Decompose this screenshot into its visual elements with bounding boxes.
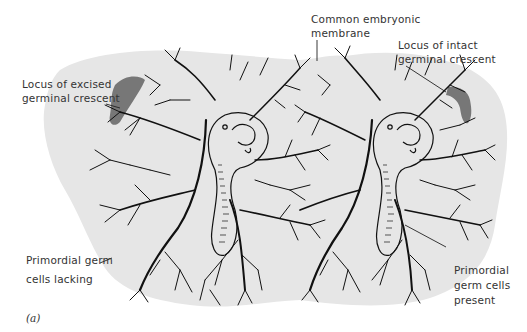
label-germ-cells-present: Primordial germ cells present bbox=[454, 263, 510, 308]
label-line: Primordial bbox=[454, 263, 510, 278]
label-line: Locus of intact bbox=[398, 38, 496, 52]
label-germ-cells-lacking: Primordial germ cells lacking bbox=[26, 251, 113, 289]
label-line: Locus of excised bbox=[22, 77, 120, 91]
label-line: germ cells bbox=[454, 278, 510, 293]
label-line: germinal crescent bbox=[22, 91, 120, 105]
embryo-diagram-figure: Locus of excised germinal crescent Commo… bbox=[0, 0, 527, 332]
panel-label: (a) bbox=[26, 312, 40, 324]
label-common-membrane: Common embryonic membrane bbox=[311, 12, 420, 40]
label-excised-crescent: Locus of excised germinal crescent bbox=[22, 77, 120, 105]
label-intact-crescent: Locus of intact germinal crescent bbox=[398, 38, 496, 66]
label-line: Primordial germ bbox=[26, 251, 113, 270]
label-line: cells lacking bbox=[26, 270, 113, 289]
label-line: germinal crescent bbox=[398, 52, 496, 66]
label-line: present bbox=[454, 293, 510, 308]
label-line: Common embryonic bbox=[311, 12, 420, 26]
